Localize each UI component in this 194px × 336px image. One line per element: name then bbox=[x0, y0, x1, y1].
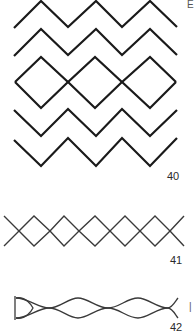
figure-label-42: 42 bbox=[170, 322, 182, 333]
figure-42-chain-pattern bbox=[0, 0, 194, 336]
figure-label-40: 40 bbox=[167, 171, 179, 182]
edge-mark-top: E bbox=[187, 0, 194, 10]
edge-mark-bottom: | bbox=[189, 302, 192, 312]
figure-label-41: 41 bbox=[170, 255, 182, 266]
